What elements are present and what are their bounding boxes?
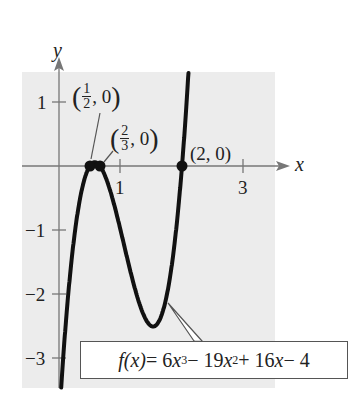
x-axis-label: x	[295, 154, 304, 174]
zero-point-two-thirds	[95, 161, 106, 172]
x-tick-label-3: 3	[238, 178, 248, 197]
zero-point-two	[177, 161, 188, 172]
zero-label-half: ( 12 , 0 )	[72, 82, 121, 111]
equation-label: f(x) = 6x3 − 19x2 + 16x − 4	[80, 341, 348, 379]
zero-label-two-thirds: ( 23 , 0 )	[110, 124, 159, 153]
y-tick-label-minus-1: −1	[25, 221, 45, 240]
y-tick-label-minus-2: −2	[25, 285, 45, 304]
y-axis-label: y	[53, 40, 62, 60]
y-tick-label-minus-3: −3	[25, 349, 45, 368]
y-tick-label-1: 1	[37, 93, 47, 112]
x-tick-label-1: 1	[115, 178, 125, 197]
zero-label-two: (2, 0)	[190, 144, 231, 163]
zero-point-half	[85, 161, 96, 172]
